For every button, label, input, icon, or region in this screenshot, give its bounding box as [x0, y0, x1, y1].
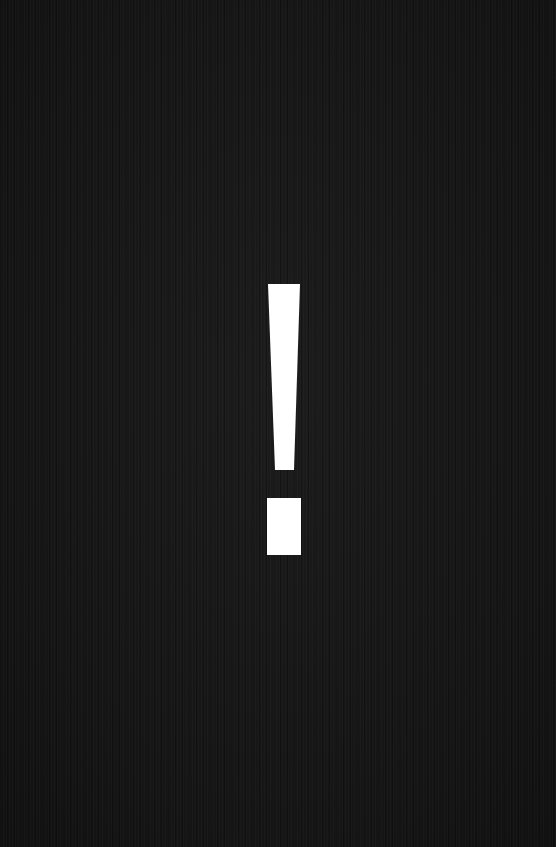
exclamation-dot: [267, 498, 301, 555]
alert-screen: [0, 0, 556, 847]
exclamation-mark-icon: [0, 0, 556, 847]
exclamation-bar: [268, 284, 300, 470]
